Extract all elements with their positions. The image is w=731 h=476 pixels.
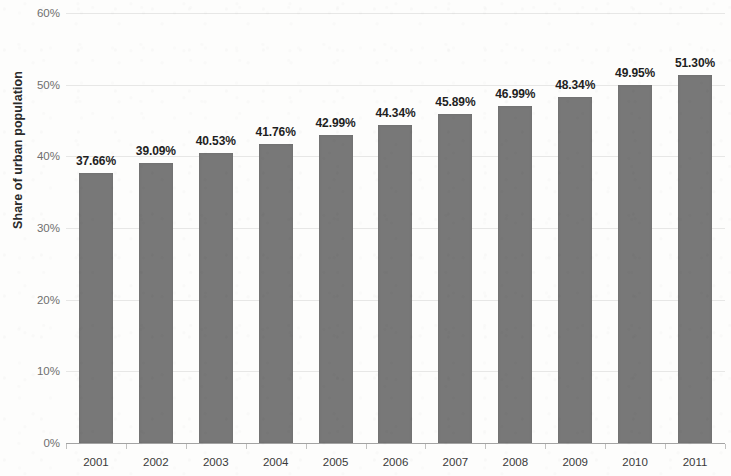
bar-group: 42.99%: [306, 0, 366, 476]
bar-series: 37.66%39.09%40.53%41.76%42.99%44.34%45.8…: [66, 0, 725, 476]
y-axis-tick-label: 40%: [16, 150, 60, 162]
bar: [678, 75, 712, 443]
bar: [438, 114, 472, 443]
bar: [79, 173, 113, 443]
x-axis-tick: [366, 444, 367, 449]
x-axis-tick-label: 2006: [383, 456, 409, 468]
bar-value-label: 46.99%: [495, 87, 535, 101]
bar-value-label: 44.34%: [375, 106, 415, 120]
bar: [618, 85, 652, 443]
bar: [139, 163, 173, 443]
bar-group: 48.34%: [545, 0, 605, 476]
x-axis-tick: [665, 444, 666, 449]
x-axis-tick: [246, 444, 247, 449]
y-axis-tick-label: 50%: [16, 79, 60, 91]
bar-group: 37.66%: [66, 0, 126, 476]
x-axis-tick: [725, 444, 726, 449]
x-axis-tick: [306, 444, 307, 449]
bar-value-label: 40.53%: [196, 134, 236, 148]
bar-group: 46.99%: [485, 0, 545, 476]
bar: [498, 106, 532, 443]
x-axis-tick: [545, 444, 546, 449]
y-axis-tick-label: 0%: [16, 437, 60, 449]
bar-value-label: 42.99%: [316, 116, 356, 130]
bar-value-label: 49.95%: [615, 66, 655, 80]
bar-group: 49.95%: [605, 0, 665, 476]
x-axis-tick-label: 2003: [203, 456, 229, 468]
y-axis-tick-label: 60%: [16, 7, 60, 19]
bar-group: 41.76%: [246, 0, 306, 476]
x-axis-tick: [126, 444, 127, 449]
bar-group: 51.30%: [665, 0, 725, 476]
bar: [558, 97, 592, 443]
bar-group: 39.09%: [126, 0, 186, 476]
x-axis-tick-label: 2002: [143, 456, 169, 468]
bar-group: 40.53%: [186, 0, 246, 476]
y-axis-tick-labels: 0%10%20%30%40%50%60%: [14, 0, 60, 476]
bar-value-label: 39.09%: [136, 144, 176, 158]
y-axis-tick-label: 30%: [16, 222, 60, 234]
x-axis-tick: [605, 444, 606, 449]
bar: [319, 135, 353, 443]
x-axis-tick-label: 2011: [683, 456, 708, 468]
bar-value-label: 41.76%: [256, 125, 296, 139]
bar-group: 45.89%: [425, 0, 485, 476]
x-axis-tick: [425, 444, 426, 449]
y-axis-tick-label: 10%: [16, 365, 60, 377]
bar-value-label: 51.30%: [675, 56, 715, 70]
y-axis-tick-label: 20%: [16, 294, 60, 306]
bar: [378, 125, 412, 443]
bar-value-label: 48.34%: [555, 78, 595, 92]
x-axis-tick: [186, 444, 187, 449]
bar-chart: Share of urban population 0%10%20%30%40%…: [0, 0, 731, 476]
bar: [199, 153, 233, 443]
x-axis-tick-label: 2009: [562, 456, 588, 468]
x-axis-tick-label: 2007: [443, 456, 469, 468]
bar-value-label: 37.66%: [76, 154, 116, 168]
x-axis-tick-label: 2005: [323, 456, 349, 468]
x-axis-tick-label: 2004: [263, 456, 289, 468]
x-axis-tick: [66, 444, 67, 449]
plot-area: 37.66%39.09%40.53%41.76%42.99%44.34%45.8…: [66, 0, 725, 476]
x-axis-tick-label: 2010: [622, 456, 648, 468]
bar: [259, 144, 293, 443]
x-axis-tick: [485, 444, 486, 449]
x-axis-tick-label: 2008: [503, 456, 529, 468]
bar-value-label: 45.89%: [435, 95, 475, 109]
x-axis-tick-label: 2001: [83, 456, 109, 468]
bar-group: 44.34%: [366, 0, 426, 476]
